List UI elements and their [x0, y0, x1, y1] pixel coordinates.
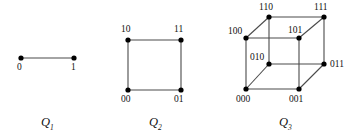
- graph-vertex: [243, 86, 248, 91]
- edges-layer: [21, 17, 324, 90]
- vertex-label: 1: [71, 63, 76, 73]
- graph-vertex: [125, 37, 130, 42]
- graph-vertex: [125, 87, 130, 92]
- graph-vertex: [296, 86, 301, 91]
- graph-vertex: [266, 61, 271, 66]
- vertex-label: 10: [121, 25, 131, 35]
- vertex-label: 101: [288, 26, 302, 36]
- graph-vertex: [178, 37, 183, 42]
- caption-base: Q: [41, 115, 50, 129]
- vertex-label: 001: [289, 95, 303, 105]
- graph-vertex: [266, 14, 271, 19]
- vertex-label: 100: [228, 27, 242, 37]
- vertex-label: 01: [174, 95, 184, 105]
- caption-subscript: 2: [158, 123, 162, 132]
- graph-vertex: [178, 87, 183, 92]
- vertex-label: 110: [259, 3, 273, 13]
- graph-edge: [299, 64, 324, 89]
- vertex-label: 111: [314, 3, 328, 13]
- graph-caption: Q1: [41, 116, 54, 131]
- vertex-label: 0: [17, 63, 22, 73]
- nodes-layer: [18, 14, 326, 92]
- graph-canvas: [0, 0, 360, 135]
- graph-vertex: [71, 55, 76, 60]
- graph-vertex: [18, 55, 23, 60]
- graph-edge: [246, 64, 269, 89]
- graph-edge: [246, 17, 269, 38]
- vertex-label: 11: [174, 25, 183, 35]
- graph-vertex: [321, 14, 326, 19]
- vertex-label: 011: [330, 60, 344, 70]
- caption-subscript: 1: [50, 123, 54, 132]
- graph-vertex: [296, 35, 301, 40]
- hypercube-figure: 0110110001110111100101010011000001 Q1Q2Q…: [0, 0, 360, 135]
- caption-base: Q: [149, 115, 158, 129]
- caption-subscript: 3: [288, 123, 292, 132]
- vertex-label: 000: [236, 95, 250, 105]
- graph-caption: Q3: [279, 116, 292, 131]
- graph-vertex: [321, 61, 326, 66]
- vertex-label: 00: [121, 95, 131, 105]
- caption-base: Q: [279, 115, 288, 129]
- vertex-label: 010: [250, 53, 264, 63]
- graph-caption: Q2: [149, 116, 162, 131]
- graph-edge: [299, 17, 324, 38]
- graph-vertex: [243, 35, 248, 40]
